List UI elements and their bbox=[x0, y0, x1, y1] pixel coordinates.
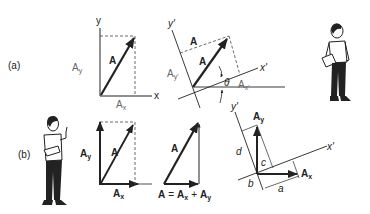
x-axis-label: x bbox=[154, 90, 159, 101]
person-standing-icon bbox=[322, 24, 351, 101]
proj-a-right bbox=[293, 161, 299, 178]
y-axis-label: y bbox=[96, 15, 101, 26]
vector-a-label: A bbox=[111, 147, 118, 158]
top-a-label: A bbox=[190, 36, 197, 47]
vector-a-label: A bbox=[109, 55, 116, 66]
comp-ax-label: Ax bbox=[301, 168, 312, 180]
comp-ax-label: Ax bbox=[113, 188, 124, 200]
angle-arc-lower bbox=[220, 90, 222, 103]
comp-ax-label: Ax bbox=[116, 99, 127, 111]
vector-sum-equation: A=Ax+Ay bbox=[158, 189, 211, 202]
panel-a-fig2: y' x' A A Ay' Ax' θ bbox=[167, 18, 285, 108]
vector-a-arrow bbox=[164, 123, 198, 184]
angle-arc-upper bbox=[219, 66, 222, 77]
proj-top-cap bbox=[242, 125, 257, 131]
x-prime-label: x' bbox=[259, 62, 268, 73]
panel-b-fig2: A A=Ax+Ay bbox=[158, 123, 211, 202]
seg-a-label: a bbox=[278, 183, 284, 194]
vector-a-label: A bbox=[171, 143, 178, 154]
comp-ay-label: Ay bbox=[72, 62, 83, 75]
panel-b-label: (b) bbox=[18, 149, 30, 160]
seg-c-label: c bbox=[261, 157, 266, 168]
comp-ay-label: Ay bbox=[253, 111, 264, 124]
panel-b-fig1: A Ay Ax bbox=[80, 122, 152, 200]
comp-ay-prime-label: Ay' bbox=[167, 68, 179, 81]
comp-ax-prime-label: Ax' bbox=[238, 79, 250, 91]
vector-a-label: A bbox=[199, 56, 206, 67]
person-pointing-icon bbox=[42, 116, 67, 205]
dashed-proj-right bbox=[229, 36, 240, 75]
seg-d-label: d bbox=[236, 146, 242, 157]
y-prime-label: y' bbox=[167, 18, 176, 29]
vector-a-arrow bbox=[101, 38, 134, 95]
seg-b-label: b bbox=[248, 178, 254, 189]
comp-ay-label: Ay bbox=[80, 148, 91, 161]
panel-a-label: (a) bbox=[8, 60, 20, 71]
x-prime-label: x' bbox=[326, 141, 335, 152]
dashed-proj-top bbox=[180, 36, 229, 53]
panel-b-fig3: y' x' Ay Ax d c b a bbox=[230, 101, 335, 194]
theta-label: θ bbox=[224, 77, 230, 88]
y-prime-label: y' bbox=[230, 101, 239, 112]
vector-components-diagram: (a) y x A Ay Ax y' x' A A Ay' Ax' θ bbox=[0, 0, 370, 214]
panel-a-fig1: y x A Ay Ax bbox=[72, 15, 159, 111]
